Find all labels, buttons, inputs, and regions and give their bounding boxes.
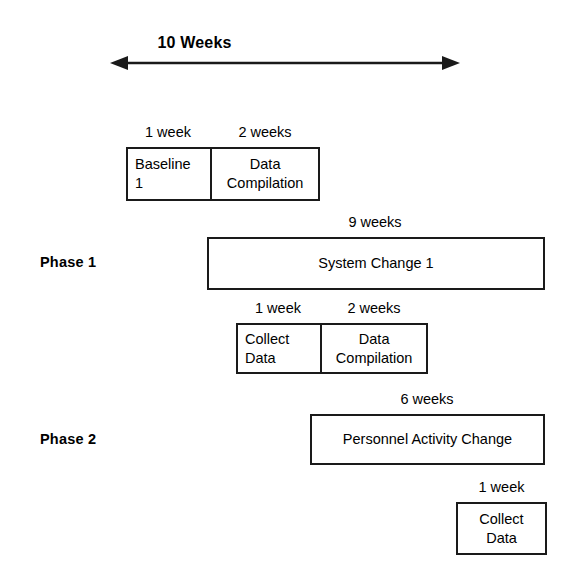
bar-cell-collect-data-1: Collect Data	[238, 325, 320, 372]
bar-cell-personnel-activity-change: Personnel Activity Change	[312, 416, 543, 463]
duration-label-collect-data-1: 1 week	[236, 300, 320, 316]
bar-collect-data-row: Collect Data Data Compilation	[236, 323, 428, 374]
timeline-scale-label: 10 Weeks	[0, 34, 483, 52]
bar-cell-data-compilation-1: Data Compilation	[210, 149, 318, 199]
duration-label-data-compilation-2: 2 weeks	[320, 300, 428, 316]
bar-system-change-row: System Change 1	[207, 237, 545, 290]
duration-label-data-compilation-1: 2 weeks	[210, 124, 320, 140]
timeline-diagram: 10 Weeks 1 week 2 weeks Baseline 1 Data …	[0, 0, 577, 580]
bar-baseline-row: Baseline 1 Data Compilation	[126, 147, 320, 201]
duration-label-collect-data-2: 1 week	[456, 479, 547, 495]
bar-final-collect-row: Collect Data	[456, 502, 547, 555]
double-arrow-horizontal-icon	[108, 52, 462, 76]
bar-personnel-change-row: Personnel Activity Change	[310, 414, 545, 465]
bar-cell-baseline-1: Baseline 1	[128, 149, 210, 199]
phase-label-phase-1: Phase 1	[40, 254, 96, 270]
bar-cell-system-change-1: System Change 1	[209, 239, 543, 288]
bar-cell-data-compilation-2: Data Compilation	[320, 325, 426, 372]
duration-label-system-change: 9 weeks	[315, 214, 435, 230]
phase-label-phase-2: Phase 2	[40, 431, 96, 447]
bar-cell-collect-data-2: Collect Data	[458, 504, 545, 553]
duration-label-baseline: 1 week	[126, 124, 210, 140]
duration-label-personnel-change: 6 weeks	[367, 391, 487, 407]
